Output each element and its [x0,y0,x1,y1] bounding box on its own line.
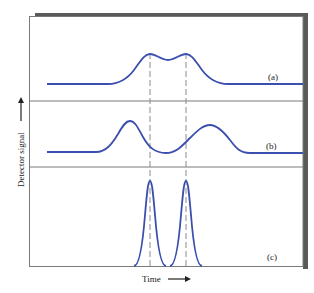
x-axis-arrow-icon [168,276,191,282]
x-axis-label: Time [142,274,161,284]
panel-label-b: (b) [266,141,277,151]
panel-label-a: (a) [268,72,278,82]
y-axis-label-group: Detector signal [16,97,26,187]
diagram-canvas: (a) (b) (c) Time Detector signal [0,0,314,293]
y-axis-label: Detector signal [16,132,26,187]
chromatogram-resolution-diagram: (a) (b) (c) Time Detector signal [0,0,314,293]
frame-shadow-right [303,13,308,269]
y-axis-arrow-icon [18,97,24,121]
plot-frame [30,17,304,267]
panel-label-c: (c) [267,252,277,262]
